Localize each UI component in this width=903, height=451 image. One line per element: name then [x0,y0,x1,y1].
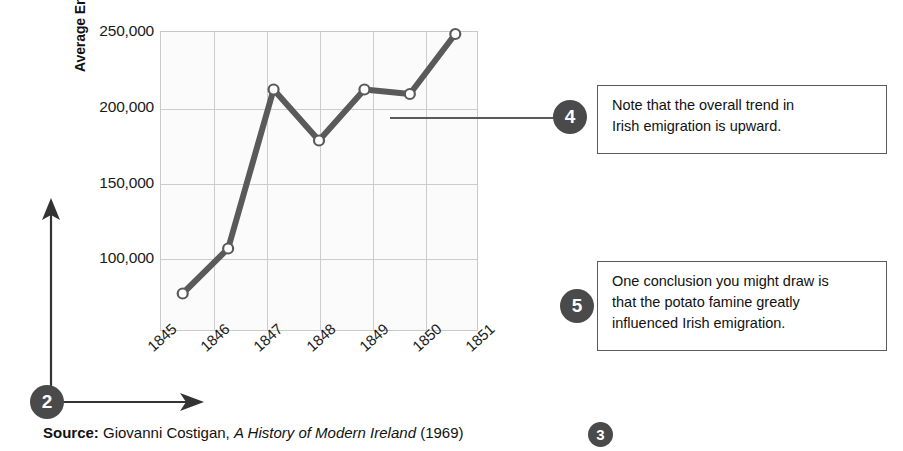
callout-4-box[interactable]: Note that the overall trend in Irish emi… [597,85,887,154]
annotation-badge-4[interactable]: 4 [553,100,587,134]
data-point-1847 [269,85,279,95]
source-author: Giovanni Costigan, [103,424,230,441]
callout-5-line-1: One conclusion you might draw is [612,271,874,292]
data-point-1846 [223,244,233,254]
callout-4-leader-line [390,117,554,119]
callout-5-line-2: that the potato famine greatly [612,292,874,313]
source-label: Source: [43,424,99,441]
callout-5-box[interactable]: One conclusion you might draw is that th… [597,261,887,351]
annotation-badge-3[interactable]: 3 [588,422,613,447]
callout-4-line-2: Irish emigration is upward. [612,116,874,137]
y-tick-150000: 150,000 [62,174,154,192]
data-point-1850 [405,89,415,99]
callout-5-line-3: influenced Irish emigration. [612,313,874,334]
source-line: Source: Giovanni Costigan, A History of … [43,424,464,441]
y-tick-250000: 250,000 [62,22,154,40]
axis-direction-arrows [34,196,214,416]
data-point-1848 [314,136,324,146]
data-point-1849 [359,85,369,95]
annotation-badge-2[interactable]: 2 [30,385,64,419]
callout-4-line-1: Note that the overall trend in [612,95,874,116]
y-tick-200000: 200,000 [62,98,154,116]
source-year: (1969) [420,424,463,441]
annotation-badge-5[interactable]: 5 [560,289,594,323]
data-point-1851 [450,29,460,39]
source-work-title: A History of Modern Ireland [234,424,416,441]
series-polyline [183,34,456,294]
